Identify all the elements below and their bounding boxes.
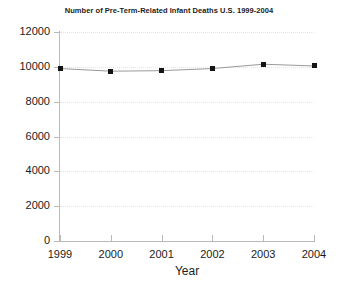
y-tick-label: 12000 xyxy=(0,26,50,37)
x-tick-label: 2004 xyxy=(290,248,338,260)
x-tick-label: 2002 xyxy=(188,248,236,260)
y-tick-label: 2000 xyxy=(0,200,50,211)
y-tick-mark xyxy=(54,32,59,33)
chart-title: Number of Pre-Term-Related Infant Deaths… xyxy=(0,6,338,15)
x-tick-label: 2001 xyxy=(138,248,186,260)
x-tick-mark xyxy=(162,235,163,241)
data-point-marker xyxy=(261,62,266,67)
x-tick-label: 2000 xyxy=(87,248,135,260)
y-gridline xyxy=(60,102,314,103)
y-tick-mark xyxy=(54,241,59,242)
plot-area xyxy=(60,32,314,241)
data-point-marker xyxy=(312,63,317,68)
y-gridline xyxy=(60,32,314,33)
y-tick-label: 10000 xyxy=(0,61,50,72)
data-point-marker xyxy=(108,69,113,74)
y-tick-label: 8000 xyxy=(0,96,50,107)
y-tick-mark xyxy=(54,102,59,103)
x-tick-label: 2003 xyxy=(239,248,287,260)
y-tick-mark xyxy=(54,206,59,207)
y-tick-label: 4000 xyxy=(0,165,50,176)
y-tick-mark xyxy=(54,137,59,138)
y-gridline xyxy=(60,137,314,138)
chart-container: Number of Pre-Term-Related Infant Deaths… xyxy=(0,0,338,292)
y-tick-mark xyxy=(54,171,59,172)
data-point-marker xyxy=(210,66,215,71)
x-tick-label: 1999 xyxy=(36,248,84,260)
data-point-marker xyxy=(159,68,164,73)
y-tick-label: 6000 xyxy=(0,131,50,142)
y-tick-label: 0 xyxy=(0,235,50,246)
y-gridline xyxy=(60,206,314,207)
y-gridline xyxy=(60,171,314,172)
y-gridline xyxy=(60,67,314,68)
x-tick-mark xyxy=(263,235,264,241)
data-point-marker xyxy=(58,66,63,71)
x-tick-mark xyxy=(314,235,315,241)
x-tick-mark xyxy=(60,235,61,241)
x-axis-line xyxy=(59,241,315,242)
x-tick-mark xyxy=(111,235,112,241)
x-axis-title: Year xyxy=(60,264,314,278)
x-tick-mark xyxy=(212,235,213,241)
